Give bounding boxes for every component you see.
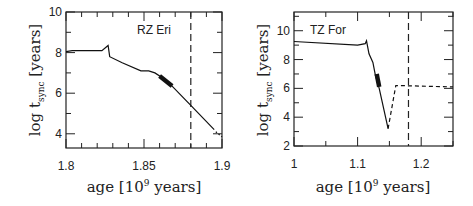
x-axis-label: age [109 years] — [87, 178, 202, 196]
x-tick-label: 1.8 — [58, 159, 75, 173]
x-tick-label: 1.85 — [132, 159, 156, 173]
chart-panel-2: 11.11.2246810age [109 years]log tsync [y… — [254, 12, 453, 196]
y-tick-label: 6 — [55, 86, 62, 100]
x-axis-label: age [109 years] — [316, 178, 431, 196]
y-tick-label: 2 — [283, 139, 290, 153]
series-line — [377, 74, 380, 87]
series-line — [160, 76, 173, 86]
y-tick-label: 4 — [55, 127, 62, 141]
y-tick-label: 10 — [277, 24, 291, 38]
x-tick-label: 1 — [291, 157, 298, 171]
x-tick-label: 1.1 — [349, 157, 366, 171]
chart-canvas: 1.81.851.946810age [109 years]log tsync … — [0, 0, 473, 206]
series-line — [294, 41, 388, 129]
star-annotation: RZ Eri — [137, 23, 171, 37]
y-tick-label: 8 — [55, 46, 62, 60]
star-annotation: TZ For — [310, 23, 346, 37]
x-tick-label: 1.9 — [214, 159, 231, 173]
x-tick-label: 1.2 — [413, 157, 430, 171]
series-line — [388, 86, 453, 129]
series-line — [66, 46, 214, 130]
y-axis-label: log tsync [years] — [26, 24, 46, 136]
y-tick-label: 8 — [283, 53, 290, 67]
chart-panel-1: 1.81.851.946810age [109 years]log tsync … — [26, 5, 231, 196]
y-tick-label: 4 — [283, 110, 290, 124]
y-tick-label: 6 — [283, 81, 290, 95]
y-tick-label: 10 — [49, 5, 63, 19]
series-line — [216, 132, 222, 137]
y-axis-label: log tsync [years] — [254, 24, 274, 136]
